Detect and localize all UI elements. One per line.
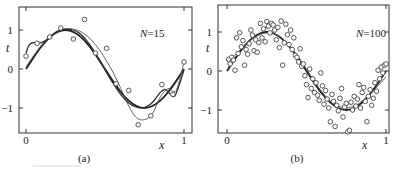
data-point — [276, 25, 281, 30]
data-point — [104, 46, 109, 51]
data-point — [114, 82, 119, 87]
data-point — [377, 77, 382, 82]
data-point — [373, 80, 378, 85]
data-point — [336, 108, 341, 113]
data-point — [245, 52, 250, 57]
panel-a: −10101xtN=15(a) — [1, 7, 192, 165]
data-point — [360, 90, 365, 95]
data-point — [24, 54, 29, 59]
data-point — [258, 21, 263, 26]
data-point — [311, 77, 316, 82]
sample-size-annotation: N=15 — [139, 27, 165, 39]
panel-caption: (b) — [291, 152, 304, 165]
data-point — [306, 95, 311, 100]
y-tick-label: 0 — [8, 63, 14, 75]
data-point — [344, 101, 349, 106]
data-point — [331, 99, 336, 104]
data-point — [47, 35, 52, 40]
y-axis-label: t — [6, 41, 10, 55]
data-point — [93, 51, 98, 56]
data-point — [285, 32, 290, 37]
data-point — [326, 106, 331, 111]
data-point — [320, 84, 325, 89]
y-tick-label: −1 — [1, 102, 13, 114]
data-point — [247, 41, 252, 46]
data-point — [384, 62, 389, 67]
data-point — [349, 100, 354, 105]
data-point — [325, 97, 330, 102]
sample-size-annotation: N=100 — [355, 27, 387, 39]
data-point — [355, 97, 360, 102]
data-point — [365, 119, 370, 124]
data-point — [236, 51, 241, 56]
data-point — [249, 28, 254, 33]
data-point — [363, 99, 368, 104]
data-point — [288, 28, 293, 33]
data-point — [255, 50, 260, 55]
data-point — [350, 108, 355, 113]
data-point — [322, 102, 327, 107]
data-point — [271, 23, 276, 28]
curve-overfit-poly — [26, 29, 184, 108]
y-axis-label: t — [206, 41, 210, 55]
data-point — [361, 85, 366, 90]
data-point — [333, 124, 338, 129]
data-point — [368, 87, 373, 92]
x-tick-label: 0 — [224, 134, 230, 146]
data-point — [307, 67, 312, 72]
y-tick-label: 1 — [8, 24, 14, 36]
data-point — [317, 98, 322, 103]
data-point — [268, 30, 273, 35]
data-point — [244, 47, 249, 52]
data-point — [171, 92, 176, 97]
data-point — [136, 122, 141, 127]
data-point — [263, 39, 268, 44]
x-tick-label: 1 — [383, 134, 389, 146]
data-point — [280, 63, 285, 68]
data-point — [264, 19, 269, 24]
data-point — [304, 82, 309, 87]
data-point — [82, 17, 87, 22]
data-point — [126, 88, 131, 93]
data-point — [381, 71, 386, 76]
data-point — [290, 47, 295, 52]
data-point — [71, 37, 76, 42]
data-point — [261, 27, 266, 32]
data-point — [239, 45, 244, 50]
data-point — [319, 71, 324, 76]
data-point — [228, 62, 233, 67]
y-tick-label: 0 — [207, 65, 213, 77]
data-point — [277, 45, 282, 50]
data-point — [357, 82, 362, 87]
x-tick-label: 0 — [23, 134, 29, 146]
data-point — [284, 22, 289, 27]
data-point — [314, 80, 319, 85]
data-point — [358, 106, 363, 111]
data-point — [374, 89, 379, 94]
curve-gp-mean-fit — [26, 29, 184, 120]
data-point — [149, 114, 154, 119]
data-point — [282, 41, 287, 46]
y-tick-label: −1 — [200, 104, 212, 116]
data-point — [366, 94, 371, 99]
data-point — [260, 36, 265, 41]
data-point — [160, 82, 165, 87]
data-point — [339, 86, 344, 91]
data-point — [298, 46, 303, 51]
data-point — [353, 104, 358, 109]
data-point — [242, 63, 247, 68]
data-point — [237, 30, 242, 35]
data-point — [315, 93, 320, 98]
data-point — [58, 26, 63, 31]
x-axis-label: x — [361, 138, 368, 152]
data-point — [274, 38, 279, 43]
x-tick-label: 1 — [181, 134, 187, 146]
data-point — [369, 103, 374, 108]
data-point — [330, 92, 335, 97]
data-point — [296, 60, 301, 65]
data-point — [291, 36, 296, 41]
data-point — [341, 115, 346, 120]
data-point — [231, 58, 236, 63]
data-point — [301, 62, 306, 67]
data-point — [287, 42, 292, 47]
